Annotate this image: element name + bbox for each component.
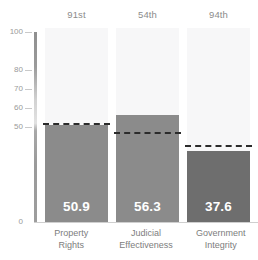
reference-line-government-integrity — [185, 145, 252, 147]
x-axis-baseline — [34, 222, 258, 223]
category-label-line2: Effectiveness — [119, 240, 172, 250]
y-axis-tick-mark — [25, 108, 32, 109]
y-axis-tick-50: 50 — [2, 123, 23, 131]
y-axis-tick-label: 60 — [14, 103, 23, 112]
y-axis-tick-100: 100 — [2, 28, 23, 36]
rank-label-property-rights: 91st — [41, 7, 112, 23]
y-axis-tick-mark — [25, 89, 32, 90]
rank-label-row: 91st 54th 94th — [41, 7, 254, 23]
rank-label-judicial-effectiveness: 54th — [112, 7, 183, 23]
y-axis-tick-60: 60 — [2, 104, 23, 112]
y-axis-tick-mark — [25, 127, 32, 128]
category-label-property-rights: Property Rights — [34, 228, 109, 258]
rank-label-government-integrity: 94th — [183, 7, 254, 23]
category-label-line2: Rights — [59, 240, 85, 250]
y-axis-tick-80: 80 — [2, 66, 23, 74]
category-label-line1: Government — [196, 228, 246, 238]
y-axis-tick-label: 70 — [14, 84, 23, 93]
category-label-line1: Property — [54, 228, 88, 238]
y-axis-tick-label: 100 — [10, 27, 23, 36]
bar-value-label: 50.9 — [45, 199, 108, 214]
y-axis-tick-70: 70 — [2, 85, 23, 93]
bar-column-judicial-effectiveness[interactable]: 56.3 — [112, 28, 183, 222]
bar-column-government-integrity[interactable]: 37.6 — [183, 28, 254, 222]
bar-value-label: 56.3 — [116, 199, 179, 214]
category-label-judicial-effectiveness: Judicial Effectiveness — [109, 228, 184, 258]
plot-area: 100 80 70 60 50 0 50.9 — [0, 28, 258, 226]
reference-line-property-rights — [43, 123, 110, 125]
y-axis-spine — [34, 32, 37, 222]
category-label-line2: Integrity — [205, 240, 237, 250]
bar-value-label: 37.6 — [187, 199, 250, 214]
bar-government-integrity[interactable]: 37.6 — [187, 151, 250, 222]
y-axis-tick-label: 0 — [19, 217, 23, 226]
bar-columns: 50.9 56.3 37.6 — [41, 28, 254, 222]
bar-column-property-rights[interactable]: 50.9 — [41, 28, 112, 222]
y-axis-tick-label: 80 — [14, 65, 23, 74]
y-axis-tick-0: 0 — [2, 218, 23, 226]
bar-property-rights[interactable]: 50.9 — [45, 125, 108, 222]
category-label-row: Property Rights Judicial Effectiveness G… — [34, 228, 258, 258]
y-axis-tick-label: 50 — [14, 122, 23, 131]
category-label-government-integrity: Government Integrity — [183, 228, 258, 258]
rule-of-law-bar-chart: 91st 54th 94th 100 80 70 60 50 0 — [0, 0, 258, 260]
category-label-line1: Judicial — [131, 228, 161, 238]
y-axis-tick-mark — [25, 70, 32, 71]
reference-line-judicial-effectiveness — [114, 132, 181, 134]
y-axis-tick-mark — [25, 32, 32, 33]
